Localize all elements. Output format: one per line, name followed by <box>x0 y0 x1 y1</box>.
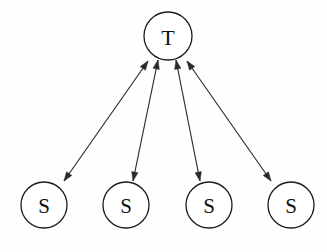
graph-edge <box>175 60 202 181</box>
graph-node-s4[interactable]: S <box>268 182 314 228</box>
node-label: S <box>285 194 297 218</box>
arrowhead-icon <box>153 60 159 69</box>
graph-node-s3[interactable]: S <box>186 182 232 228</box>
node-label: S <box>120 194 132 218</box>
edge-line <box>133 60 158 181</box>
node-label: S <box>203 194 215 218</box>
arrowhead-icon <box>263 172 271 181</box>
node-label: T <box>161 25 175 50</box>
graph-edge <box>64 61 148 181</box>
arrowhead-icon <box>175 60 181 69</box>
graph-node-s2[interactable]: S <box>103 182 149 228</box>
node-label: S <box>38 194 50 218</box>
arrowhead-icon <box>64 172 72 181</box>
graph-node-t[interactable]: T <box>144 12 192 60</box>
diagram-canvas: TSSSS <box>0 0 327 252</box>
arrowhead-icon <box>195 172 201 181</box>
arrowhead-icon <box>187 61 195 70</box>
graph-node-s1[interactable]: S <box>21 182 67 228</box>
graph-edge <box>187 61 271 181</box>
arrowhead-icon <box>140 61 148 70</box>
edges-layer <box>64 60 271 181</box>
nodes-layer: TSSSS <box>21 12 314 228</box>
arrowhead-icon <box>132 172 138 181</box>
edge-line <box>187 61 271 181</box>
edge-line <box>176 60 200 181</box>
edge-line <box>64 61 148 181</box>
node-graph-svg: TSSSS <box>0 0 327 252</box>
